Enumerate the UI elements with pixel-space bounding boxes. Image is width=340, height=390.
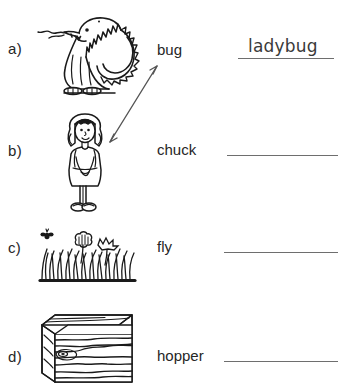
row-letter-b: b) — [8, 142, 22, 159]
wood-block-illustration — [39, 313, 135, 385]
answer-line-c[interactable] — [224, 252, 338, 253]
worksheet-page: a) — [0, 0, 340, 390]
row-letter-c: c) — [8, 239, 21, 256]
answer-line-a[interactable] — [238, 58, 334, 59]
word-label-bug: bug — [157, 41, 182, 58]
word-label-chuck: chuck — [157, 141, 196, 158]
answer-text-a: ladybug — [248, 36, 318, 56]
word-label-fly: fly — [157, 238, 172, 255]
row-letter-d: d) — [8, 348, 22, 365]
word-label-hopper: hopper — [157, 347, 204, 364]
answer-line-d[interactable] — [224, 361, 338, 362]
girl-illustration — [57, 112, 113, 215]
answer-line-b[interactable] — [227, 155, 338, 156]
row-letter-a: a) — [8, 40, 22, 57]
dragon-illustration — [33, 5, 153, 105]
grass-illustration — [36, 227, 140, 285]
